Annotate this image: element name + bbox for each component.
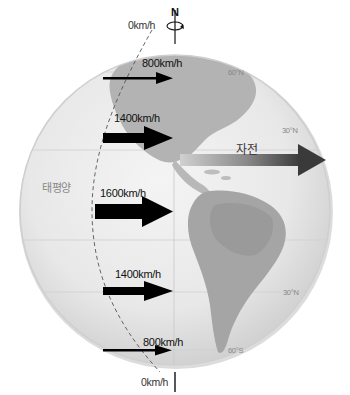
speed-label-60s: 800km/h xyxy=(143,336,183,348)
speed-label-30n: 1400km/h xyxy=(114,112,160,124)
latitude-label-60n: 60°N xyxy=(228,68,244,77)
pole-speed-bottom-label: 0km/h xyxy=(141,376,168,388)
earth-rotation-diagram: N 0km/h 0km/h 800km/h 1400km/h 1600km/h … xyxy=(0,0,350,395)
speed-label-60n: 800km/h xyxy=(142,57,182,69)
latitude-label-30n: 30°N xyxy=(282,126,298,135)
pole-speed-top-label: 0km/h xyxy=(128,19,155,31)
latitude-label-30s: 30°N xyxy=(283,288,299,297)
speed-label-30s: 1400km/h xyxy=(115,268,161,280)
speed-label-equator: 1600km/h xyxy=(100,187,146,199)
pacific-ocean-label: 태평양 xyxy=(42,179,71,195)
rotation-label: 자전 xyxy=(236,140,257,157)
latitude-label-60s: 60°S xyxy=(228,346,243,355)
north-pole-label: N xyxy=(171,6,179,18)
